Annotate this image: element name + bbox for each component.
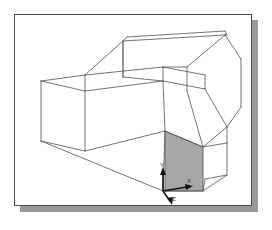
edge (41, 141, 163, 191)
edge (85, 67, 163, 75)
edge (187, 91, 203, 147)
z-axis-label: Z (172, 196, 176, 202)
edge (225, 31, 227, 35)
wireframe-edges (41, 31, 241, 191)
edge (85, 131, 165, 151)
edge (225, 35, 241, 59)
model-viewport[interactable]: Y X Z (14, 14, 252, 206)
selected-face[interactable] (165, 131, 203, 191)
edge (163, 81, 165, 131)
edge (41, 75, 85, 81)
edge (187, 35, 225, 67)
x-axis-label: X (187, 178, 191, 184)
edge (41, 141, 85, 151)
cad-viewport-screen: Y X Z (0, 0, 272, 230)
edge (41, 81, 85, 91)
edge (227, 107, 241, 127)
wireframe-model-canvas[interactable]: Y X Z (15, 15, 251, 205)
edge (123, 77, 163, 81)
y-axis-label: Y (160, 162, 164, 168)
edge (163, 81, 205, 89)
edge (205, 89, 227, 127)
edge (163, 67, 205, 75)
edge (85, 81, 163, 91)
edge (85, 41, 123, 75)
